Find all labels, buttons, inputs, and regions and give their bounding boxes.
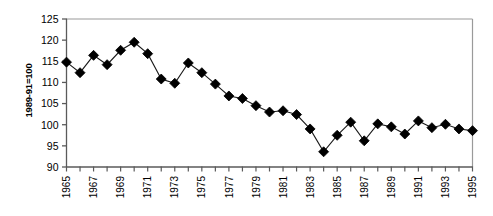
data-point-marker <box>468 126 478 136</box>
x-tick-label: 1967 <box>88 176 99 199</box>
data-point-marker <box>454 124 464 134</box>
axis-frame <box>67 19 473 167</box>
x-tick-label: 1971 <box>142 176 153 199</box>
y-tick-label: 120 <box>41 34 59 46</box>
x-tick-label: 1985 <box>332 176 343 199</box>
x-tick-label: 1989 <box>386 176 397 199</box>
x-tick-label: 1995 <box>467 176 478 199</box>
x-tick-label: 1991 <box>413 176 424 199</box>
data-point-marker <box>265 107 275 117</box>
data-point-marker <box>170 78 180 88</box>
data-line <box>67 42 473 152</box>
data-point-marker <box>278 106 288 116</box>
y-tick-label: 110 <box>42 76 59 88</box>
data-point-marker <box>183 58 193 68</box>
plot-area: 9095100105110115120125 19651967196919711… <box>0 0 493 216</box>
data-point-marker <box>440 119 450 129</box>
x-axis-labels: 1965196719691971197319751977197919811983… <box>61 176 478 199</box>
y-tick-label: 115 <box>42 55 59 67</box>
data-point-marker <box>89 50 99 60</box>
data-point-marker <box>237 93 247 103</box>
data-point-marker <box>156 74 166 84</box>
data-point-marker <box>62 57 72 67</box>
x-tick-label: 1987 <box>359 176 370 199</box>
data-point-marker <box>75 68 85 78</box>
line-chart: 1989-91=100 9095100105110115120125 19651… <box>0 0 493 216</box>
x-tick-label: 1973 <box>169 176 180 199</box>
y-axis-labels: 9095100105110115120125 <box>41 13 59 173</box>
x-tick-label: 1981 <box>278 176 289 199</box>
y-tick-label: 125 <box>41 13 59 25</box>
data-point-marker <box>251 101 261 111</box>
y-tick-label: 90 <box>47 161 59 173</box>
data-point-marker <box>427 123 437 133</box>
data-markers <box>62 37 478 157</box>
x-tick-label: 1983 <box>305 176 316 199</box>
x-tick-label: 1977 <box>224 176 235 199</box>
x-tick-label: 1969 <box>115 176 126 199</box>
y-tick-label: 105 <box>41 97 59 109</box>
x-tick-label: 1975 <box>196 176 207 199</box>
y-tick-label: 95 <box>47 140 59 152</box>
x-tick-label: 1965 <box>61 176 72 199</box>
data-point-marker <box>386 122 396 132</box>
x-tick-label: 1993 <box>440 176 451 199</box>
y-tick-label: 100 <box>41 119 59 131</box>
x-tick-label: 1979 <box>251 176 262 199</box>
